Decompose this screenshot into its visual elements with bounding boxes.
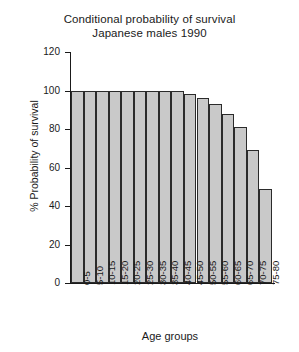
bar <box>197 98 210 283</box>
bar <box>96 91 109 284</box>
bars-container <box>71 52 273 283</box>
x-axis-tick-label: 70-75 <box>257 261 268 285</box>
bar <box>209 104 222 283</box>
bar <box>146 91 159 284</box>
bar <box>109 91 122 284</box>
bar <box>134 91 147 284</box>
bar <box>121 91 134 284</box>
x-axis-tick-label: 40-45 <box>182 261 193 285</box>
x-axis-tick-label: 30-35 <box>157 261 168 285</box>
x-axis-tick-label: 60-65 <box>232 261 243 285</box>
x-axis-tick-label: 50-55 <box>207 261 218 285</box>
bar <box>222 114 235 283</box>
x-axis-tick-label: 15-20 <box>119 261 130 285</box>
bar <box>184 94 197 283</box>
bar <box>171 91 184 284</box>
x-axis-tick-label: 45-50 <box>194 261 205 285</box>
x-axis-tick-label: 55-60 <box>219 261 230 285</box>
x-axis-tick-label: 65-70 <box>244 261 255 285</box>
x-axis-tick-label: 20-25 <box>131 261 142 285</box>
bar <box>159 91 172 284</box>
x-axis-tick-label: 10-15 <box>106 261 117 285</box>
y-axis-tick-label: 100 <box>28 85 60 96</box>
x-axis-title: Age groups <box>60 330 280 342</box>
x-axis-tick-label: 35-40 <box>169 261 180 285</box>
bar <box>71 91 84 284</box>
x-axis-tick-labels: 0-55-1010-1515-2020-2525-3030-3535-4040-… <box>71 285 273 330</box>
y-axis-tick-label: 80 <box>28 123 60 134</box>
x-axis-tick-label: 0-5 <box>81 271 92 285</box>
x-axis-tick-label: 5-10 <box>94 266 105 285</box>
chart-figure: Conditional probability of survival Japa… <box>0 0 299 352</box>
y-axis-tick-label: 60 <box>28 162 60 173</box>
y-axis-tick-label: 0 <box>28 277 60 288</box>
chart-title-line-2: Japanese males 1990 <box>0 26 299 40</box>
y-axis-tick-label: 20 <box>28 239 60 250</box>
x-axis-tick-label: 75-80 <box>270 261 281 285</box>
y-axis-tick-label: 40 <box>28 200 60 211</box>
bar <box>84 91 97 284</box>
y-axis-tick <box>65 283 71 284</box>
y-axis-tick-label: 120 <box>28 46 60 57</box>
bar <box>234 127 247 283</box>
x-axis-tick-label: 25-30 <box>144 261 155 285</box>
chart-title: Conditional probability of survival Japa… <box>0 12 299 40</box>
chart-title-line-1: Conditional probability of survival <box>0 12 299 26</box>
